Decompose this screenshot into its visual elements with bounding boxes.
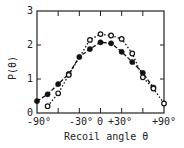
fit-curve-2 <box>48 34 164 106</box>
x-tick-minus90: -90° <box>27 116 51 127</box>
open-circle-point <box>130 51 135 56</box>
x-tick-plus90: +90° <box>152 116 176 127</box>
fit-curve-1 <box>37 42 153 101</box>
open-circle-point <box>56 91 61 96</box>
axis-ticks <box>37 11 164 113</box>
x-axis-label: Recoil angle θ <box>64 131 148 142</box>
open-circle-point <box>109 33 114 38</box>
filled-circle-point <box>87 46 92 51</box>
open-circle-point <box>151 86 156 91</box>
y-axis-label: P(θ) <box>7 56 18 80</box>
filled-circle-point <box>130 59 135 64</box>
filled-circle-point <box>56 82 61 87</box>
filled-circle-point <box>77 54 82 59</box>
open-circle-point <box>141 75 146 80</box>
filled-circle-point <box>98 40 103 45</box>
x-tick-minus30: -30° <box>69 116 93 127</box>
filled-circle-point <box>119 49 124 54</box>
open-circle-point <box>98 32 103 37</box>
x-tick-plus30: +30° <box>108 116 132 127</box>
x-tick-0: 0 <box>97 116 103 127</box>
open-circle-point <box>162 101 167 106</box>
open-circle-point <box>45 104 50 109</box>
open-circle-point <box>66 73 71 78</box>
filled-circle-point <box>34 99 39 104</box>
tick-labels: 3 2 1 0 -90° -30° 0 +30° +90° Recoil ang… <box>7 5 176 142</box>
plot-frame <box>37 11 164 113</box>
data-points <box>34 32 166 109</box>
axes-box <box>37 11 164 113</box>
open-circle-point <box>88 38 93 43</box>
filled-circle-point <box>45 92 50 97</box>
open-circle-point <box>119 37 124 42</box>
y-tick-2: 2 <box>27 39 33 50</box>
y-tick-3: 3 <box>27 5 33 16</box>
filled-circle-point <box>108 41 113 46</box>
y-tick-1: 1 <box>27 73 33 84</box>
chart: 3 2 1 0 -90° -30° 0 +30° +90° Recoil ang… <box>0 0 184 148</box>
